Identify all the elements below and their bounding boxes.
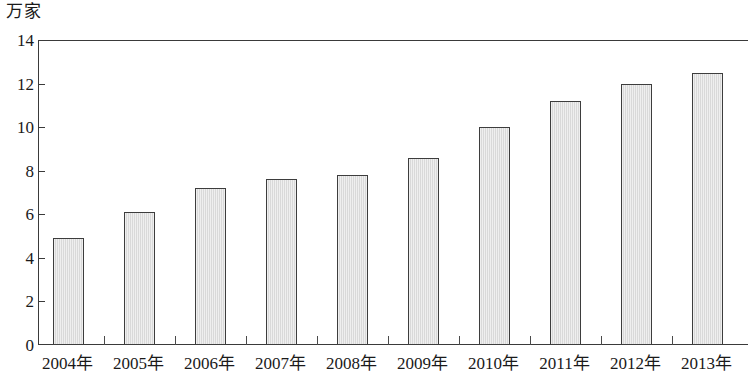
y-axis-tick-label: 6: [4, 206, 34, 223]
x-axis-tick-label: 2010年: [458, 351, 529, 377]
x-axis-tick-label: 2007年: [245, 351, 316, 377]
x-axis-tick-label: 2013年: [671, 351, 742, 377]
x-axis-tick-mark: [388, 336, 389, 345]
y-axis-tick-label: 4: [4, 250, 34, 267]
x-axis-tick-mark: [246, 336, 247, 345]
bar: [550, 101, 581, 345]
y-axis-tick-mark: [38, 214, 45, 215]
bar: [124, 212, 155, 345]
x-axis-tick-mark: [459, 336, 460, 345]
y-axis-tick-label: 10: [4, 119, 34, 136]
x-axis-tick-mark: [601, 336, 602, 345]
x-axis-tick-label: 2005年: [103, 351, 174, 377]
y-axis-tick-mark: [38, 258, 45, 259]
y-axis-tick-mark: [38, 171, 45, 172]
bar: [621, 84, 652, 345]
bars-layer: [38, 40, 748, 345]
y-axis-tick-label: 14: [4, 32, 34, 49]
x-axis-tick-label: 2009年: [387, 351, 458, 377]
x-axis-tick-label: 2012年: [600, 351, 671, 377]
x-axis-tick-mark: [175, 336, 176, 345]
bar: [195, 188, 226, 345]
bar: [266, 179, 297, 345]
bar: [692, 73, 723, 345]
x-axis-tick-mark: [104, 336, 105, 345]
y-axis-tick-label: 2: [4, 293, 34, 310]
bar: [479, 127, 510, 345]
y-axis-unit-label: 万家: [6, 2, 42, 22]
bar: [337, 175, 368, 345]
x-axis-tick-mark: [672, 336, 673, 345]
y-axis-tick-label: 8: [4, 163, 34, 180]
x-axis-tick-label: 2006年: [174, 351, 245, 377]
x-axis-tick-mark: [317, 336, 318, 345]
y-axis-tick-mark: [38, 84, 45, 85]
x-axis-tick-labels: 2004年2005年2006年2007年2008年2009年2010年2011年…: [38, 351, 748, 381]
x-axis-tick-label: 2011年: [529, 351, 600, 377]
x-axis-tick-label: 2008年: [316, 351, 387, 377]
bar-chart: 万家 02468101214 2004年2005年2006年2007年2008年…: [0, 0, 751, 383]
y-axis-tick-mark: [38, 127, 45, 128]
x-axis-tick-mark: [530, 336, 531, 345]
bar: [53, 238, 84, 345]
bar: [408, 158, 439, 345]
x-axis-tick-label: 2004年: [32, 351, 103, 377]
y-axis-tick-labels: 02468101214: [0, 40, 34, 345]
y-axis-tick-mark: [38, 301, 45, 302]
y-axis-tick-label: 0: [4, 337, 34, 354]
y-axis-tick-label: 12: [4, 76, 34, 93]
